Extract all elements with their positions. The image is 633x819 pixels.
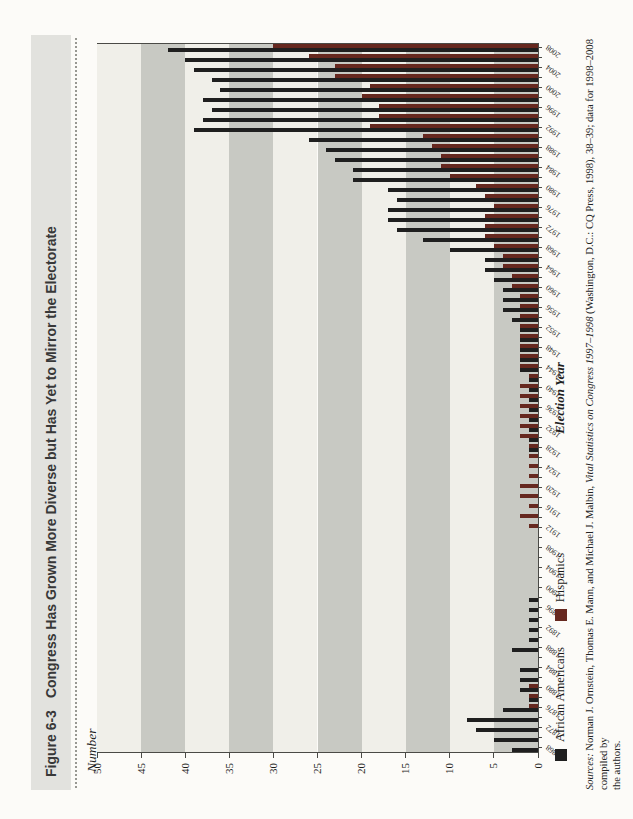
bar-hispanics xyxy=(432,144,538,148)
bar-african-americans xyxy=(220,88,538,92)
bar-hispanics xyxy=(520,434,538,438)
bar-hispanics xyxy=(370,124,538,128)
x-axis-baseline xyxy=(538,43,540,753)
bar-hispanics xyxy=(520,384,538,388)
bar-hispanics xyxy=(520,364,538,368)
y-tick-label: 10 xyxy=(443,763,455,789)
y-tick xyxy=(97,753,98,758)
bar-african-americans xyxy=(512,648,538,652)
bar-african-americans xyxy=(520,368,538,372)
bar-hispanics xyxy=(485,234,538,238)
y-tick-label: 15 xyxy=(399,763,411,789)
bar-african-americans xyxy=(494,278,538,282)
bar-hispanics xyxy=(335,74,538,78)
bar-african-americans xyxy=(168,48,538,52)
bar-african-americans xyxy=(494,738,538,742)
y-tick-label: 35 xyxy=(223,763,235,789)
bar-african-americans xyxy=(476,728,538,732)
grid-band xyxy=(273,43,317,753)
bar-african-americans xyxy=(309,138,538,142)
bar-african-americans xyxy=(503,708,538,712)
bar-african-americans xyxy=(520,358,538,362)
bar-hispanics xyxy=(520,354,538,358)
bar-african-americans xyxy=(388,188,538,192)
bar-hispanics xyxy=(520,484,538,488)
bar-african-americans xyxy=(326,148,538,152)
y-tick xyxy=(317,753,318,758)
source-note-line2: the authors. xyxy=(610,28,624,790)
bar-hispanics xyxy=(379,104,538,108)
y-tick-label: 5 xyxy=(487,763,499,789)
bar-hispanics xyxy=(520,304,538,308)
grid-band xyxy=(185,43,229,753)
y-tick xyxy=(141,753,142,758)
y-tick xyxy=(449,753,450,758)
bar-hispanics xyxy=(520,414,538,418)
y-tick xyxy=(229,753,230,758)
legend-swatch-african-americans xyxy=(555,749,567,761)
bar-hispanics xyxy=(485,214,538,218)
plot-area: 1868187218761880188418881892189619001904… xyxy=(97,43,538,753)
bar-african-americans xyxy=(203,118,538,122)
bar-hispanics xyxy=(370,84,538,88)
bar-hispanics xyxy=(520,294,538,298)
bar-african-americans xyxy=(467,718,538,722)
bar-hispanics xyxy=(520,514,538,518)
y-tick-label: 20 xyxy=(355,763,367,789)
bar-african-americans xyxy=(397,228,538,232)
grid-band xyxy=(97,43,141,753)
y-tick xyxy=(538,753,539,758)
figure-canvas: Figure 6-3 Congress Has Grown More Diver… xyxy=(0,0,633,819)
bar-hispanics xyxy=(520,424,538,428)
bar-african-americans xyxy=(353,168,538,172)
grid-band xyxy=(141,43,185,753)
bar-african-americans xyxy=(503,288,538,292)
bar-african-americans xyxy=(512,318,538,322)
bar-hispanics xyxy=(423,134,538,138)
y-tick-label: 25 xyxy=(311,763,323,789)
source-note-line1: Sources: Norman J. Ornstein, Thomas E. M… xyxy=(583,28,610,790)
bar-african-americans xyxy=(503,308,538,312)
y-tick-label: 50 xyxy=(91,763,103,789)
bar-african-americans xyxy=(212,108,538,112)
bar-hispanics xyxy=(441,164,538,168)
legend-swatch-hispanics xyxy=(555,609,567,621)
bar-hispanics xyxy=(362,94,538,98)
bar-hispanics xyxy=(485,224,538,228)
bar-african-americans xyxy=(397,198,538,202)
bar-african-americans xyxy=(388,218,538,222)
y-tick xyxy=(361,753,362,758)
dotted-rule xyxy=(75,38,77,788)
bar-african-americans xyxy=(353,178,538,182)
bar-hispanics xyxy=(379,114,538,118)
y-tick-label: 40 xyxy=(179,763,191,789)
y-tick-label: 30 xyxy=(267,763,279,789)
bar-hispanics xyxy=(450,174,538,178)
figure-title-band: Figure 6-3 Congress Has Grown More Diver… xyxy=(31,35,71,790)
bar-hispanics xyxy=(441,154,538,158)
bar-african-americans xyxy=(520,668,538,672)
bar-hispanics xyxy=(520,344,538,348)
bar-african-americans xyxy=(335,158,538,162)
bar-african-americans xyxy=(520,688,538,692)
y-axis-line xyxy=(97,752,538,753)
y-tick-label: 45 xyxy=(135,763,147,789)
y-tick xyxy=(405,753,406,758)
bar-hispanics xyxy=(503,264,538,268)
y-tick xyxy=(493,753,494,758)
grid-band xyxy=(229,43,273,753)
bar-african-americans xyxy=(520,328,538,332)
figure-title: Congress Has Grown More Diverse but Has … xyxy=(43,226,59,698)
bar-hispanics xyxy=(309,54,538,58)
bar-hispanics xyxy=(512,274,538,278)
legend-label-hispanics: Hispanics xyxy=(553,553,568,602)
bar-african-americans xyxy=(520,338,538,342)
bar-hispanics xyxy=(335,64,538,68)
bar-hispanics xyxy=(494,244,538,248)
bar-hispanics xyxy=(520,324,538,328)
y-tick xyxy=(185,753,186,758)
legend: African Americans Hispanics xyxy=(553,527,568,761)
bar-hispanics xyxy=(512,284,538,288)
bar-hispanics xyxy=(494,204,538,208)
bar-african-americans xyxy=(485,258,538,262)
